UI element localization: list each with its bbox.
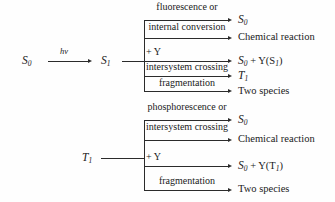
singlet-product-2: Chemical reaction [238,32,315,43]
photochemistry-pathway-diagram: S0 hv S1 fluorescence or internal conver… [0,0,335,202]
photon-energy-label: hv [60,47,68,56]
triplet-caption-1b: intersystem crossing [140,122,234,132]
singlet-caption-1a: fluorescence or [144,2,230,12]
triplet-product-2: Chemical reaction [238,134,315,145]
excited-singlet-state-label: S1 [101,55,111,67]
triplet-arrowhead-icon-4 [228,188,232,192]
triplet-product-1: S0 [238,114,248,126]
triplet-product-4: Two species [238,184,289,195]
triplet-branch-line-2 [144,140,228,141]
singlet-arrowhead-icon-1 [228,18,232,22]
singlet-caption-4: intersystem crossing [140,62,234,72]
triplet-branch-line-3 [144,166,228,167]
singlet-caption-3: + Y [146,47,161,57]
triplet-caption-1a: phosphorescence or [140,102,234,112]
triplet-arrowhead-icon-3 [228,164,232,168]
triplet-trunk-connector [101,158,144,159]
singlet-arrowhead-icon-2 [228,36,232,40]
singlet-caption-5: fragmentation [140,78,234,88]
triplet-product-3: S0 + Y(T1) [238,160,283,172]
ground-state-label: S0 [22,55,32,67]
singlet-arrowhead-icon-5 [228,89,232,93]
singlet-product-4: T1 [238,70,248,82]
triplet-branch-line-4 [144,190,228,191]
singlet-arrowhead-icon-4 [228,74,232,78]
singlet-branch-line-2 [144,38,228,39]
excitation-arrowhead-icon [88,59,92,63]
singlet-product-5: Two species [238,86,289,97]
singlet-product-3: S0 + Y(S1) [238,55,282,67]
triplet-arrowhead-icon-2 [228,138,232,142]
triplet-arrowhead-icon-1 [228,118,232,122]
singlet-product-1: S0 [238,14,248,26]
triplet-state-label: T1 [82,152,92,164]
triplet-caption-3: + Y [146,152,161,162]
excitation-arrow-line [48,61,88,62]
singlet-caption-1b: internal conversion [140,22,234,32]
triplet-caption-4: fragmentation [140,176,234,186]
singlet-branch-line-5 [144,91,228,92]
